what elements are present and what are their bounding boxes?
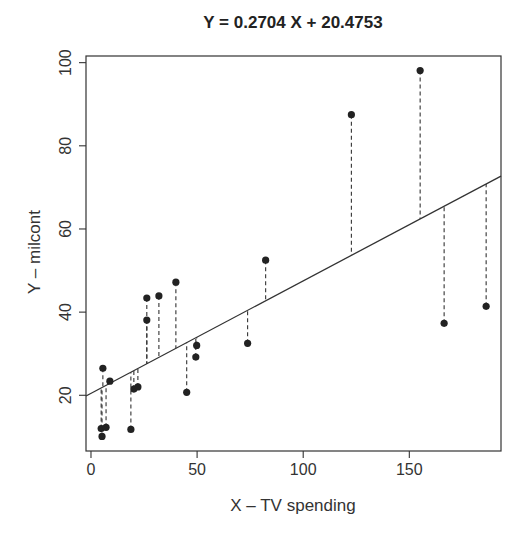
data-point <box>417 67 424 74</box>
data-point <box>143 294 150 301</box>
data-point <box>262 257 269 264</box>
x-tick-label: 100 <box>290 461 317 478</box>
data-point <box>483 303 490 310</box>
data-point <box>99 365 106 372</box>
y-tick-label: 100 <box>57 49 74 76</box>
data-point <box>441 320 448 327</box>
data-point <box>348 111 355 118</box>
data-point <box>183 389 190 396</box>
background <box>0 0 530 543</box>
data-point <box>127 426 134 433</box>
y-axis-label: Y – milcont <box>25 210 44 294</box>
x-tick-label: 150 <box>396 461 423 478</box>
data-point <box>134 383 141 390</box>
data-point <box>155 292 162 299</box>
data-point <box>102 424 109 431</box>
data-point <box>193 342 200 349</box>
y-tick-label: 60 <box>57 220 74 238</box>
scatter-plot: Y = 0.2704 X + 20.4753 050100150 2040608… <box>0 0 530 543</box>
data-point <box>172 279 179 286</box>
data-point <box>143 316 150 323</box>
chart-title: Y = 0.2704 X + 20.4753 <box>203 13 382 32</box>
data-point <box>192 353 199 360</box>
x-tick-label: 50 <box>188 461 206 478</box>
data-point <box>106 378 113 385</box>
x-axis-label: X – TV spending <box>230 496 355 515</box>
y-tick-label: 20 <box>57 386 74 404</box>
y-tick-label: 40 <box>57 303 74 321</box>
y-tick-label: 80 <box>57 137 74 155</box>
data-point <box>98 433 105 440</box>
x-tick-label: 0 <box>87 461 96 478</box>
data-point <box>244 340 251 347</box>
